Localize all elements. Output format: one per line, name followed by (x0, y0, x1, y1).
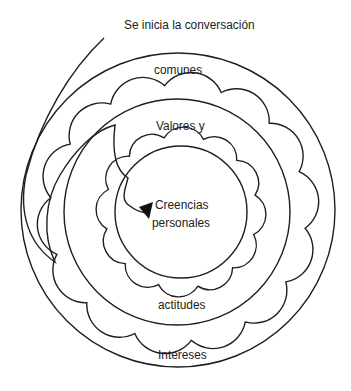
conversation-layers-diagram: Se inicia la conversación comunes Valore… (0, 0, 351, 391)
label-intereses: Intereses (158, 346, 207, 362)
arrowhead-icon (139, 202, 153, 219)
label-creencias: Creencias (155, 196, 208, 212)
label-start: Se inicia la conversación (124, 16, 255, 32)
label-comunes: comunes (154, 61, 202, 77)
label-personales: personales (152, 214, 210, 230)
label-actitudes: actitudes (158, 296, 206, 312)
label-valores-y: Valores y (156, 117, 205, 133)
conversation-path-line (24, 38, 146, 262)
